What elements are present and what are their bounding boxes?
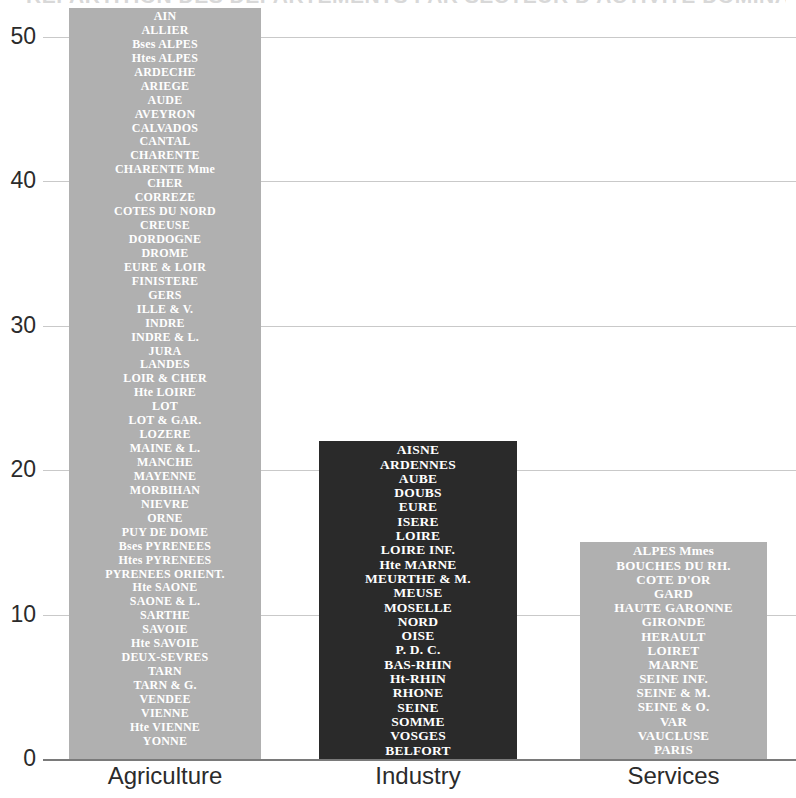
department-label: ORNE: [147, 512, 182, 526]
bar-services[interactable]: ALPES MmesBOUCHES DU RH.COTE D'ORGARDHAU…: [580, 542, 767, 759]
department-label: CHARENTE Mme: [115, 163, 215, 177]
department-label: RHONE: [393, 686, 444, 700]
plot-area: 01020304050 AINALLIERBses ALPESHtes ALPE…: [43, 8, 796, 759]
department-label: LOIRE: [396, 529, 441, 543]
department-label: ALPES Mmes: [633, 544, 714, 558]
department-label: Hte VIENNE: [130, 721, 200, 735]
bar-agriculture[interactable]: AINALLIERBses ALPESHtes ALPESARDECHEARIE…: [69, 8, 261, 759]
department-label: SEINE INF.: [639, 672, 708, 686]
department-label: OISE: [401, 629, 434, 643]
y-tick-label-0: 0: [0, 745, 44, 772]
department-label: NORD: [398, 615, 439, 629]
department-label: AIN: [154, 10, 177, 24]
department-label: SEINE & O.: [638, 700, 710, 714]
department-label: CREUSE: [140, 219, 190, 233]
department-label: BOUCHES DU RH.: [616, 559, 730, 573]
department-label: HAUTE GARONNE: [614, 601, 733, 615]
department-label: CALVADOS: [132, 122, 198, 136]
x-tick-label-agriculture: Agriculture: [69, 762, 261, 790]
department-label: VOSGES: [390, 729, 446, 743]
y-tick-label-30: 30: [0, 312, 44, 339]
department-label: DOUBS: [394, 486, 442, 500]
department-label: SAVOIE: [142, 623, 187, 637]
department-label: VENDEE: [139, 693, 190, 707]
department-label: MAYENNE: [134, 470, 196, 484]
y-tick-label-40: 40: [0, 167, 44, 194]
department-label: AISNE: [397, 443, 439, 457]
department-label: Hte MARNE: [379, 558, 456, 572]
department-label: DEUX-SEVRES: [122, 651, 209, 665]
department-label: Htes PYRENEES: [119, 554, 212, 568]
department-label: SAONE & L.: [130, 595, 200, 609]
department-label: SARTHE: [140, 609, 190, 623]
department-label: ARDECHE: [134, 66, 195, 80]
department-label: MORBIHAN: [130, 484, 200, 498]
department-label: MEURTHE & M.: [365, 572, 471, 586]
department-label: TARN: [148, 665, 182, 679]
department-label: Hte LOIRE: [134, 386, 196, 400]
department-label: Htes ALPES: [132, 52, 198, 66]
department-label: SEINE: [397, 701, 439, 715]
bar-industry[interactable]: AISNEARDENNESAUBEDOUBSEUREISERELOIRELOIR…: [319, 441, 517, 759]
department-label: LOIRET: [648, 644, 700, 658]
department-label: P. D. C.: [396, 643, 441, 657]
chart-title: REPARTITION DES DEPARTEMENTS PAR SECTEUR…: [26, 0, 786, 6]
department-label: CHARENTE: [130, 149, 200, 163]
department-label: Hte SAONE: [133, 581, 198, 595]
department-label: COTE D'OR: [636, 573, 710, 587]
department-label: EURE: [399, 500, 437, 514]
y-tick-label-20: 20: [0, 456, 44, 483]
y-tick-label-10: 10: [0, 601, 44, 628]
department-label: AUBE: [399, 472, 437, 486]
x-axis-line: [43, 759, 796, 761]
department-label: PARIS: [654, 743, 693, 757]
department-label: GERS: [148, 289, 181, 303]
department-label: ILLE & V.: [137, 303, 193, 317]
department-label: LOZERE: [139, 428, 190, 442]
department-label: GARD: [654, 587, 693, 601]
bar-chart: REPARTITION DES DEPARTEMENTS PAR SECTEUR…: [0, 0, 796, 798]
department-label: Ht-RHIN: [390, 672, 446, 686]
department-label: Bses ALPES: [132, 38, 198, 52]
department-label: CHER: [147, 177, 182, 191]
department-label: ARDENNES: [380, 458, 456, 472]
department-label: FINISTERE: [132, 275, 199, 289]
department-label: NIEVRE: [141, 498, 189, 512]
x-tick-label-industry: Industry: [319, 762, 517, 790]
department-label: VAUCLUSE: [638, 729, 709, 743]
department-label: SEINE & M.: [637, 686, 711, 700]
department-label: INDRE & L.: [131, 331, 199, 345]
department-label: MAINE & L.: [130, 442, 200, 456]
department-label: DROME: [142, 247, 189, 261]
department-label: LOT: [152, 400, 178, 414]
department-label: ARIEGE: [141, 80, 190, 94]
department-label: VAR: [660, 715, 687, 729]
department-label: AUDE: [148, 94, 183, 108]
department-label: LOIRE INF.: [381, 543, 455, 557]
department-label: LANDES: [140, 358, 190, 372]
department-label: ALLIER: [141, 24, 188, 38]
department-label: GIRONDE: [642, 615, 706, 629]
department-label: CORREZE: [135, 191, 196, 205]
department-label: BELFORT: [385, 744, 450, 758]
bar-member-list-industry: AISNEARDENNESAUBEDOUBSEUREISERELOIRELOIR…: [319, 443, 517, 758]
department-label: MEUSE: [393, 586, 442, 600]
department-label: Hte SAVOIE: [131, 637, 199, 651]
department-label: Bses PYRENEES: [119, 540, 211, 554]
bar-member-list-agriculture: AINALLIERBses ALPESHtes ALPESARDECHEARIE…: [69, 10, 261, 749]
department-label: JURA: [149, 345, 182, 359]
department-label: MOSELLE: [384, 601, 452, 615]
department-label: TARN & G.: [133, 679, 196, 693]
department-label: COTES DU NORD: [114, 205, 216, 219]
department-label: LOT & GAR.: [129, 414, 202, 428]
department-label: PYRENEES ORIENT.: [105, 568, 225, 582]
department-label: VIENNE: [141, 707, 189, 721]
department-label: DORDOGNE: [129, 233, 201, 247]
department-label: HERAULT: [641, 630, 706, 644]
bar-member-list-services: ALPES MmesBOUCHES DU RH.COTE D'ORGARDHAU…: [580, 544, 767, 757]
department-label: INDRE: [145, 317, 185, 331]
department-label: CANTAL: [140, 135, 191, 149]
y-tick-label-50: 50: [0, 23, 44, 50]
department-label: ISERE: [397, 515, 439, 529]
department-label: PUY DE DOME: [122, 526, 208, 540]
